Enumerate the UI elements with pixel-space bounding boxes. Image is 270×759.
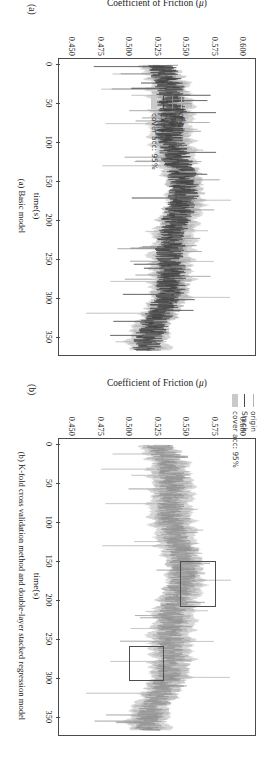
legend-line-swatch [253,394,254,407]
legend-line-swatch [244,394,245,407]
legend-band-swatch [152,96,158,109]
panel-a-legend: originBRRExtracover acc: 95% [150,96,186,170]
panel-b-x-axis-title: time(s) [32,438,42,734]
x-tick-mark [56,522,60,523]
y-tick-label: 0.525 [152,402,161,436]
y-tick-label: 0.575 [209,22,218,56]
panel-b-signal-plot [59,439,255,735]
y-tick-label: 0.475 [95,22,104,56]
y-tick-label: 0.500 [124,22,133,56]
x-tick-mark [56,444,60,445]
panel-b-legend: originStackcover acc: 95% [231,394,258,468]
x-tick-mark [56,600,60,601]
legend-label: cover acc: 95% [149,113,160,170]
legend-line-swatch [181,96,182,109]
x-tick-label: 0 [44,442,53,446]
x-tick-label: 100 [44,516,53,529]
legend-band-swatch [233,394,239,407]
x-tick-mark [56,337,60,338]
panel-b-letter: (b) [27,384,38,395]
y-tick-label: 0.550 [181,22,190,56]
legend-item: origin [177,96,186,170]
x-tick-label: 200 [44,214,53,227]
y-tick-label: 0.450 [67,402,76,436]
legend-line-swatch [163,96,164,109]
x-tick-mark [56,103,60,104]
x-tick-label: 300 [44,671,53,684]
x-tick-label: 150 [44,555,53,568]
legend-item: cover acc: 95% [231,394,240,468]
x-tick-label: 150 [44,175,53,188]
x-tick-mark [56,717,60,718]
panel-b: (b) Coefficient of Friction (μ) 0.4500.4… [0,380,270,759]
x-tick-mark [56,298,60,299]
figure: (a) Coefficient of Friction (μ) 0.4500.4… [0,0,270,759]
highlight-rectangle [180,561,216,607]
panel-a: (a) Coefficient of Friction (μ) 0.4500.4… [0,0,270,379]
panel-b-y-axis-title: Coefficient of Friction (μ) [82,378,232,388]
y-tick-label: 0.475 [95,402,104,436]
panel-a-y-axis-title: Coefficient of Friction (μ) [82,0,232,8]
y-tick-label: 0.600 [238,22,247,56]
panel-b-plot-area [58,438,256,736]
x-tick-label: 250 [44,633,53,646]
x-tick-label: 50 [44,99,53,108]
legend-item: origin [249,394,258,468]
x-tick-mark [56,639,60,640]
panel-a-letter: (a) [27,4,38,15]
legend-line-swatch [172,96,173,109]
legend-item: cover acc: 95% [150,96,159,170]
x-tick-label: 300 [44,291,53,304]
y-tick-label: 0.450 [67,22,76,56]
x-tick-mark [56,259,60,260]
x-tick-mark [56,483,60,484]
x-tick-mark [56,220,60,221]
y-tick-label: 0.575 [209,402,218,436]
x-tick-mark [56,561,60,562]
x-tick-label: 350 [44,710,53,723]
y-tick-label: 0.500 [124,402,133,436]
panel-a-caption: (a) Basic model [16,58,27,354]
x-tick-mark [56,181,60,182]
panel-b-caption: (b) K-fold cross validation method and d… [16,438,27,734]
legend-label: cover acc: 95% [230,411,241,468]
panel-b-y-ticks: 0.4500.4750.5000.5250.5500.5750.600 [60,394,256,436]
highlight-rectangle [129,646,164,681]
x-tick-mark [56,678,60,679]
panel-a-x-axis-title: time(s) [32,58,42,354]
x-tick-label: 0 [44,62,53,66]
panel-a-y-ticks: 0.4500.4750.5000.5250.5500.5750.600 [60,14,256,56]
x-tick-label: 200 [44,594,53,607]
y-tick-label: 0.525 [152,22,161,56]
x-tick-mark [56,142,60,143]
x-tick-label: 350 [44,330,53,343]
legend-item: Stack [240,394,249,468]
x-tick-label: 100 [44,136,53,149]
y-tick-label: 0.550 [181,402,190,436]
x-tick-mark [56,64,60,65]
x-tick-label: 50 [44,479,53,488]
x-tick-label: 250 [44,253,53,266]
figure-rotation-wrapper: (a) Coefficient of Friction (μ) 0.4500.4… [0,0,270,759]
legend-item: Extra [159,96,168,170]
